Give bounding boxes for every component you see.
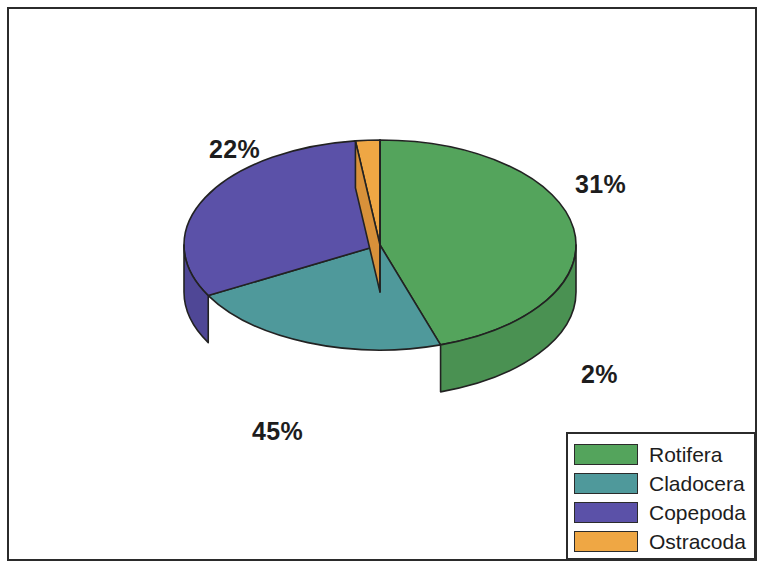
slice-label-cladocera-percent: 22% xyxy=(209,137,260,162)
legend-swatch-rotifera xyxy=(574,444,638,465)
slice-label-copepoda-percent: 31% xyxy=(575,172,626,197)
legend-item-ostracoda: Ostracoda xyxy=(574,527,754,556)
legend-swatch-cladocera xyxy=(574,473,638,494)
chart-legend: Rotifera Cladocera Copepoda Ostracoda xyxy=(566,432,756,560)
legend-label-ostracoda: Ostracoda xyxy=(649,531,746,552)
slice-label-ostracoda-percent: 2% xyxy=(581,362,618,387)
pie-slices-group xyxy=(184,140,576,392)
legend-label-rotifera: Rotifera xyxy=(649,444,723,465)
legend-swatch-ostracoda xyxy=(574,531,638,552)
figure-root: 22% 31% 2% 45% Rotifera Cladocera Copepo… xyxy=(0,0,768,570)
legend-swatch-copepoda xyxy=(574,502,638,523)
legend-item-copepoda: Copepoda xyxy=(574,498,754,527)
legend-item-cladocera: Cladocera xyxy=(574,469,754,498)
legend-label-copepoda: Copepoda xyxy=(649,502,746,523)
slice-label-rotifera-percent: 45% xyxy=(252,419,303,444)
legend-label-cladocera: Cladocera xyxy=(649,473,745,494)
legend-item-rotifera: Rotifera xyxy=(574,440,754,469)
